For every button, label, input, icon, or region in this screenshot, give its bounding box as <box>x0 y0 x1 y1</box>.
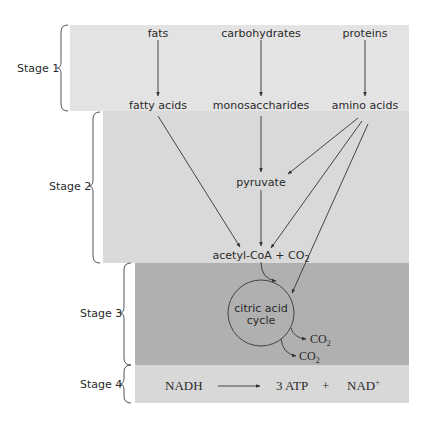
pyruvate-label: pyruvate <box>236 177 285 188</box>
co2-label-1: CO2 <box>310 333 331 348</box>
fatty-acids-label: fatty acids <box>129 100 187 111</box>
cycle-label: cycle <box>247 315 275 326</box>
amino-to-pyruvate-arrow <box>288 118 358 174</box>
stage-2-label: Stage 2 <box>49 180 91 193</box>
carbohydrates-label: carbohydrates <box>221 28 301 39</box>
atp-label: 3 ATP <box>276 379 308 392</box>
plus-label: + <box>322 379 329 392</box>
co2-out-arrow-1 <box>291 328 306 339</box>
stage-4-label: Stage 4 <box>80 378 122 391</box>
citric-acid-label: citric acid <box>234 303 287 314</box>
amino-to-cycle-arrow <box>292 124 368 293</box>
co2-out-arrow-2 <box>281 339 296 356</box>
amino-acids-label: amino acids <box>332 100 398 111</box>
acetyl-to-cycle-arrow <box>261 262 276 281</box>
nadh-label: NADH <box>165 379 203 392</box>
fats-label: fats <box>148 28 169 39</box>
nad-plus-label: NAD+ <box>347 379 380 392</box>
acetyl-coa-label: acetyl-CoA + CO2 <box>213 250 310 264</box>
fatty-acids-to-acetyl-arrow <box>158 116 240 247</box>
proteins-label: proteins <box>343 28 388 39</box>
stage-1-label: Stage 1 <box>17 62 59 75</box>
diagram-lines <box>0 0 423 428</box>
monosaccharides-label: monosaccharides <box>213 100 310 111</box>
stage-3-label: Stage 3 <box>80 307 122 320</box>
co2-label-2: CO2 <box>299 350 320 365</box>
